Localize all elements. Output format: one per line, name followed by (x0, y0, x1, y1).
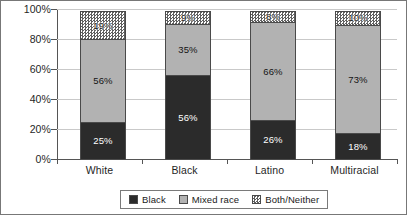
segment-mixed-race[interactable]: 35% (165, 24, 211, 77)
x-axis-label-multiracial: Multiracial (312, 164, 397, 176)
y-tick-100: 100% (1, 3, 51, 15)
y-tick-label: 60% (5, 63, 51, 75)
segment-value-label: 9% (181, 13, 195, 23)
y-tick-80: 80% (1, 33, 51, 45)
x-tick-mark (397, 159, 398, 164)
segment-value-label: 10% (348, 13, 367, 23)
segment-both-neither[interactable]: 19% (80, 11, 126, 40)
segment-both-neither[interactable]: 10% (335, 11, 381, 26)
x-axis-label-latino: Latino (227, 164, 312, 176)
bar-group-black[interactable]: 9% 35% 56% (165, 9, 211, 159)
y-tick-label: 40% (5, 93, 51, 105)
black-swatch-icon (129, 195, 138, 204)
bar-group-white[interactable]: 19% 56% 25% (80, 9, 126, 159)
segment-value-label: 56% (93, 76, 112, 86)
y-tick-label: 100% (5, 3, 51, 15)
bar-group-multiracial[interactable]: 10% 73% 18% (335, 9, 381, 159)
both-neither-swatch-icon (252, 195, 261, 204)
y-tick-label: 0% (5, 153, 51, 165)
stacked-bar[interactable]: 9% 35% 56% (165, 11, 211, 159)
bar-group-latino[interactable]: 8% 66% 26% (250, 9, 296, 159)
segment-value-label: 26% (263, 135, 282, 145)
x-axis-label-white: White (57, 164, 142, 176)
chart-frame: 100% 80% 60% 40% 20% 0% (0, 0, 407, 215)
stacked-bar[interactable]: 10% 73% 18% (335, 11, 381, 160)
stacked-bar[interactable]: 8% 66% 26% (250, 11, 296, 159)
segment-value-label: 19% (93, 21, 112, 31)
segment-value-label: 25% (93, 136, 112, 146)
segment-mixed-race[interactable]: 56% (80, 39, 126, 123)
segment-black[interactable]: 25% (80, 122, 126, 161)
x-axis-label-black: Black (142, 164, 227, 176)
segment-black[interactable]: 18% (335, 133, 381, 160)
legend-label: Black (142, 194, 166, 205)
y-tick-0: 0% (1, 153, 51, 165)
y-tick-label: 80% (5, 33, 51, 45)
segment-both-neither[interactable]: 9% (165, 11, 211, 25)
y-tick-20: 20% (1, 123, 51, 135)
y-tick-label: 20% (5, 123, 51, 135)
segment-value-label: 56% (178, 113, 197, 123)
legend-item-mixed-race[interactable]: Mixed race (179, 194, 239, 205)
segment-value-label: 8% (266, 12, 280, 22)
segment-mixed-race[interactable]: 66% (250, 22, 296, 121)
legend-label: Both/Neither (265, 194, 319, 205)
y-tick-60: 60% (1, 63, 51, 75)
legend-item-both-neither[interactable]: Both/Neither (252, 194, 319, 205)
y-tick-40: 40% (1, 93, 51, 105)
segment-black[interactable]: 56% (165, 75, 211, 160)
legend-label: Mixed race (192, 194, 239, 205)
segment-mixed-race[interactable]: 73% (335, 25, 381, 135)
mixed-race-swatch-icon (179, 195, 188, 204)
segment-value-label: 18% (348, 142, 367, 152)
segment-black[interactable]: 26% (250, 120, 296, 160)
segment-value-label: 73% (348, 75, 367, 85)
segment-value-label: 66% (263, 67, 282, 77)
stacked-bar[interactable]: 19% 56% 25% (80, 11, 126, 159)
chart-legend: Black Mixed race Both/Neither (120, 190, 328, 209)
legend-item-black[interactable]: Black (129, 194, 166, 205)
segment-value-label: 35% (178, 45, 197, 55)
plot-area: 19% 56% 25% 9% 35% 56% (57, 9, 397, 159)
